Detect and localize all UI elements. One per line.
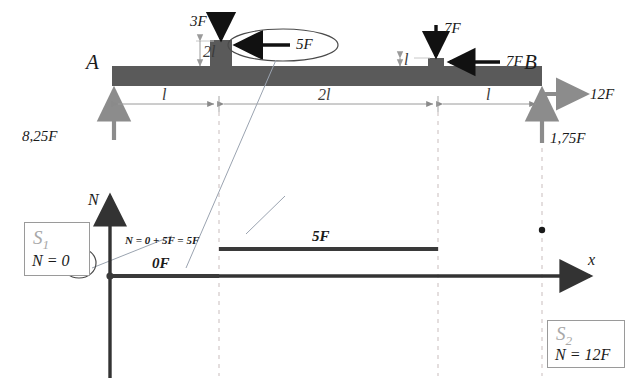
callout-S1: S1 N = 0 [24,222,90,276]
load-3F-label: 3F [190,14,207,29]
projection-lines [219,112,542,376]
load-7F-horizontal-label: 7F [506,54,523,69]
beam-label-B: B [524,52,537,73]
callout-S1-title: S1 [33,227,49,253]
dim-segment-2-label: 2l [318,87,330,103]
load-12F-label: 12F [590,87,614,102]
callout-S2-title: S2 [556,323,572,349]
figure-canvas: A B 3F 5F 7F 7F 12F 8,25F 1,75F 2l l l 2… [0,0,640,386]
dim-segment-3-label: l [486,87,490,103]
segment-5F-label: 5F [312,229,330,244]
axis-N-label: N [88,192,99,208]
axis-x-label: x [588,252,595,268]
callout-S2: S2 N = 12F [547,320,625,368]
reaction-left-label: 8,25F [22,129,57,144]
segment-0F-label: 0F [152,256,170,271]
calc-note: N = 0 + 5F = 5F [125,235,199,246]
load-7F-vertical-label: 7F [444,21,461,36]
column-right-height-label: l [404,52,408,68]
load-5F-label: 5F [296,37,313,52]
reaction-right-label: 1,75F [550,131,585,146]
callout-S2-value: N = 12F [555,346,610,364]
callout-S1-value: N = 0 [32,252,69,270]
column-left-height-label: 2l [203,44,215,60]
dim-segment-1-label: l [162,87,166,103]
beam-label-A: A [86,52,99,73]
callout-S1-subscript: 1 [43,237,50,252]
